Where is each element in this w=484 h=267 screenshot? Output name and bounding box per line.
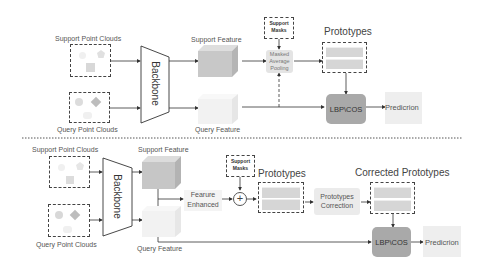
map-text: Average [269,58,289,65]
prototype-bar [326,47,363,57]
prototype-bar [374,200,411,211]
point-cloud-shape [76,162,84,170]
corrected-prototypes-label: Corrected Prototypes [355,167,450,178]
top-query-feature-cube [198,94,240,126]
prototype-bar [262,199,300,210]
top-support-feature-label: Support Feature [191,36,242,43]
masked-average-pooling-box: Masked Average Pooling [266,50,293,73]
bottom-prototypes-box [258,182,304,213]
top-query-point-clouds-box [69,92,110,123]
top-backbone-label: Backbone [150,57,161,111]
point-cloud-shape [91,97,102,108]
map-text: Masked [269,51,289,58]
point-cloud-shape [58,164,65,171]
bottom-support-feature-cube [142,156,182,190]
bottom-support-feature-label: Support Feature [138,146,189,153]
plus-operator-icon: + [233,192,247,206]
point-cloud-shape [63,226,72,233]
bottom-support-point-clouds-box [49,156,90,188]
corrected-prototypes-box [370,182,415,214]
bottom-query-point-clouds-label: Query Point Clouds [36,241,97,248]
prototype-bar [262,187,300,198]
prototypes-correction-text: Prototypes [320,193,353,202]
prototypes-correction-text: Correction [320,202,353,211]
point-cloud-shape [66,176,74,184]
top-prototypes-box [322,42,367,73]
prototype-bar [374,187,411,198]
feature-enhanced-text: Enhanced [184,200,222,210]
support-masks-text: Masks [227,165,254,172]
map-text: Pooling [269,65,289,72]
bottom-backbone-label: Backbone [112,170,123,224]
top-prediction-label: Predicrion [385,103,419,112]
top-query-feature-label: Query Feature [195,126,240,133]
top-prototypes-label: Prototypes [324,26,372,37]
bottom-support-masks-box: Support Masks [226,155,255,177]
top-support-point-clouds-label: Support Point Clouds [55,35,121,42]
support-masks-text: Masks [265,27,293,34]
support-masks-text: Support [265,20,293,27]
feature-enhanced-box: Fearure Enhanced [184,190,222,211]
bottom-query-feature-cube [142,206,182,238]
bottom-support-point-clouds-label: Support Point Clouds [32,146,98,153]
point-cloud-shape [75,98,83,106]
feature-enhanced-text: Fearure [184,190,222,200]
top-support-masks-box: Support Masks [264,17,294,39]
bottom-query-point-clouds-box [48,204,90,237]
bottom-prediction-label: Predicrion [425,238,459,247]
point-cloud-shape [97,50,105,58]
top-support-point-clouds-box [70,44,111,77]
point-cloud-shape [83,112,92,119]
prototypes-correction-box: Prototypes Correction [314,188,360,215]
bottom-query-feature-label: Query Feature [137,245,182,252]
bottom-prototypes-label: Prototypes [258,168,306,179]
bottom-lbp-cos-box: LBP\COS [372,227,411,257]
point-cloud-shape [70,210,81,221]
top-query-point-clouds-label: Query Point Clouds [57,126,118,133]
support-masks-text: Support [227,158,254,165]
top-lbp-cos-box: LBP\COS [326,94,366,124]
point-cloud-shape [86,63,95,72]
top-support-feature-cube [198,45,240,79]
prototype-bar [326,59,363,69]
point-cloud-shape [79,52,86,59]
point-cloud-shape [55,211,63,219]
